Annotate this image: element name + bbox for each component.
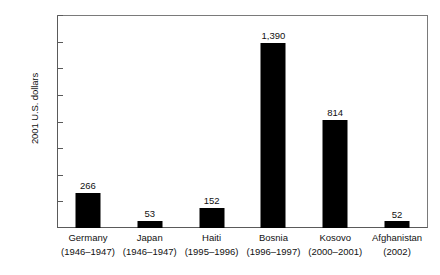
bar-slot: 152 xyxy=(181,15,243,228)
bar-series: 266531521,39081452 xyxy=(57,15,428,228)
x-axis-category-name: Japan xyxy=(119,231,181,245)
bar xyxy=(385,221,410,228)
x-axis-category-name: Germany xyxy=(57,231,119,245)
x-axis-label: Afghanistan(2002) xyxy=(366,231,428,258)
bar xyxy=(137,221,162,228)
bar xyxy=(199,208,224,228)
x-axis-label: Haiti(1995–1996) xyxy=(181,231,243,258)
bar-slot: 814 xyxy=(304,15,366,228)
bar-slot: 266 xyxy=(57,15,119,228)
x-axis-labels: Germany(1946–1947)Japan(1946–1947)Haiti(… xyxy=(57,231,428,271)
x-axis-category-period: (1946–1947) xyxy=(119,245,181,259)
x-axis-category-period: (1996–1997) xyxy=(243,245,305,259)
x-axis-label: Japan(1946–1947) xyxy=(119,231,181,258)
bar-slot: 53 xyxy=(119,15,181,228)
y-axis-title: 2001 U.S. dollars xyxy=(29,24,40,194)
bar-value-label: 1,390 xyxy=(262,30,286,41)
bar-value-label: 814 xyxy=(327,107,343,118)
bar-value-label: 52 xyxy=(392,209,403,220)
bar xyxy=(261,43,286,228)
bar-slot: 1,390 xyxy=(243,15,305,228)
x-axis-category-name: Bosnia xyxy=(243,231,305,245)
bar-value-label: 152 xyxy=(204,195,220,206)
x-axis-category-name: Afghanistan xyxy=(366,231,428,245)
x-axis-category-period: (1995–1996) xyxy=(181,245,243,259)
x-axis-category-period: (1946–1947) xyxy=(57,245,119,259)
bar-value-label: 266 xyxy=(80,180,96,191)
x-axis-label: Kosovo(2000–2001) xyxy=(304,231,366,258)
bar xyxy=(75,193,100,228)
bar-slot: 52 xyxy=(366,15,428,228)
x-axis-category-period: (2000–2001) xyxy=(304,245,366,259)
bar-value-label: 53 xyxy=(144,208,155,219)
x-axis-category-period: (2002) xyxy=(366,245,428,259)
x-axis-label: Germany(1946–1947) xyxy=(57,231,119,258)
x-axis-label: Bosnia(1996–1997) xyxy=(243,231,305,258)
bar-chart: 2001 U.S. dollars 0200400600800100012001… xyxy=(0,0,440,275)
x-axis-category-name: Haiti xyxy=(181,231,243,245)
x-axis-category-name: Kosovo xyxy=(304,231,366,245)
bar xyxy=(323,120,348,228)
